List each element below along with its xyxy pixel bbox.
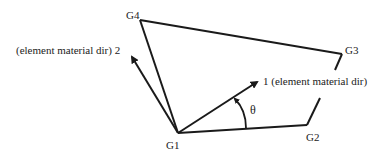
edge-g4-g1: [140, 20, 178, 133]
edge-g1-g2: [178, 125, 307, 133]
edge-g2-g3-upper: [335, 54, 342, 70]
node-label-g2: G2: [306, 132, 319, 143]
material-dir-2-arrow: [132, 57, 178, 133]
theta-label: θ: [250, 104, 256, 116]
node-label-g4: G4: [126, 10, 139, 21]
material-dir-2-label: (element material dir) 2: [16, 45, 120, 56]
material-dir-1-label: 1 (element material dir): [263, 76, 367, 87]
node-label-g3: G3: [345, 45, 358, 56]
edge-g3-g4: [140, 20, 342, 54]
node-label-g1: G1: [166, 140, 179, 151]
theta-arc: [235, 99, 246, 128]
edge-g2-g3-lower: [307, 98, 320, 125]
